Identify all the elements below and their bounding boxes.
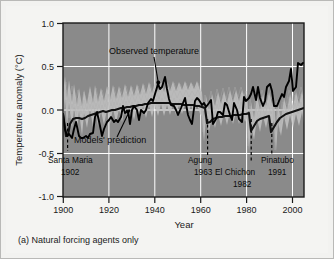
- y-tick-label-0.5: 0.5: [41, 62, 54, 72]
- figure-inner-frame: 1.0 0.5 0.0 -0.5 -1.0 1900 1920 1940 196…: [6, 6, 328, 253]
- x-tick-label-1960: 1960: [191, 205, 211, 215]
- observed-temperature-label: Observed temperature: [109, 46, 199, 56]
- volcano-year-santa-maria: 1902: [61, 167, 80, 177]
- observed-temperature-leader-dot: [156, 81, 160, 85]
- volcano-label-el-chichon: El Chichon: [215, 167, 256, 177]
- models-prediction-label: Models' prediction: [74, 135, 146, 145]
- volcano-label-agung: Agung: [188, 155, 212, 165]
- y-tick-label-0.0: 0.0: [41, 106, 54, 116]
- x-tick-label-1940: 1940: [145, 205, 165, 215]
- x-tick-label-1920: 1920: [99, 205, 119, 215]
- x-axis-title: Year: [174, 219, 193, 230]
- volcano-label-santa-maria: Santa Maria: [48, 155, 93, 165]
- volcano-label-pinatubo: Pinatubo: [261, 155, 294, 165]
- volcano-year-agung: 1963: [194, 167, 213, 177]
- x-axis-ticks: [63, 197, 292, 203]
- x-tick-label-2000: 2000: [282, 205, 302, 215]
- volcano-year-el-chichon: 1982: [233, 179, 252, 189]
- figure-caption: (a) Natural forcing agents only: [18, 235, 139, 245]
- y-axis-title: Temperature anomaly (°C): [13, 54, 24, 166]
- temperature-anomaly-chart: 1.0 0.5 0.0 -0.5 -1.0 1900 1920 1940 196…: [6, 6, 328, 253]
- figure-panel: 1.0 0.5 0.0 -0.5 -1.0 1900 1920 1940 196…: [0, 0, 334, 259]
- y-tick-label--1.0: -1.0: [38, 192, 54, 202]
- y-tick-label-1.0: 1.0: [41, 19, 54, 29]
- x-tick-label-1980: 1980: [237, 205, 257, 215]
- x-tick-label-1900: 1900: [53, 205, 73, 215]
- volcano-year-pinatubo: 1991: [268, 167, 287, 177]
